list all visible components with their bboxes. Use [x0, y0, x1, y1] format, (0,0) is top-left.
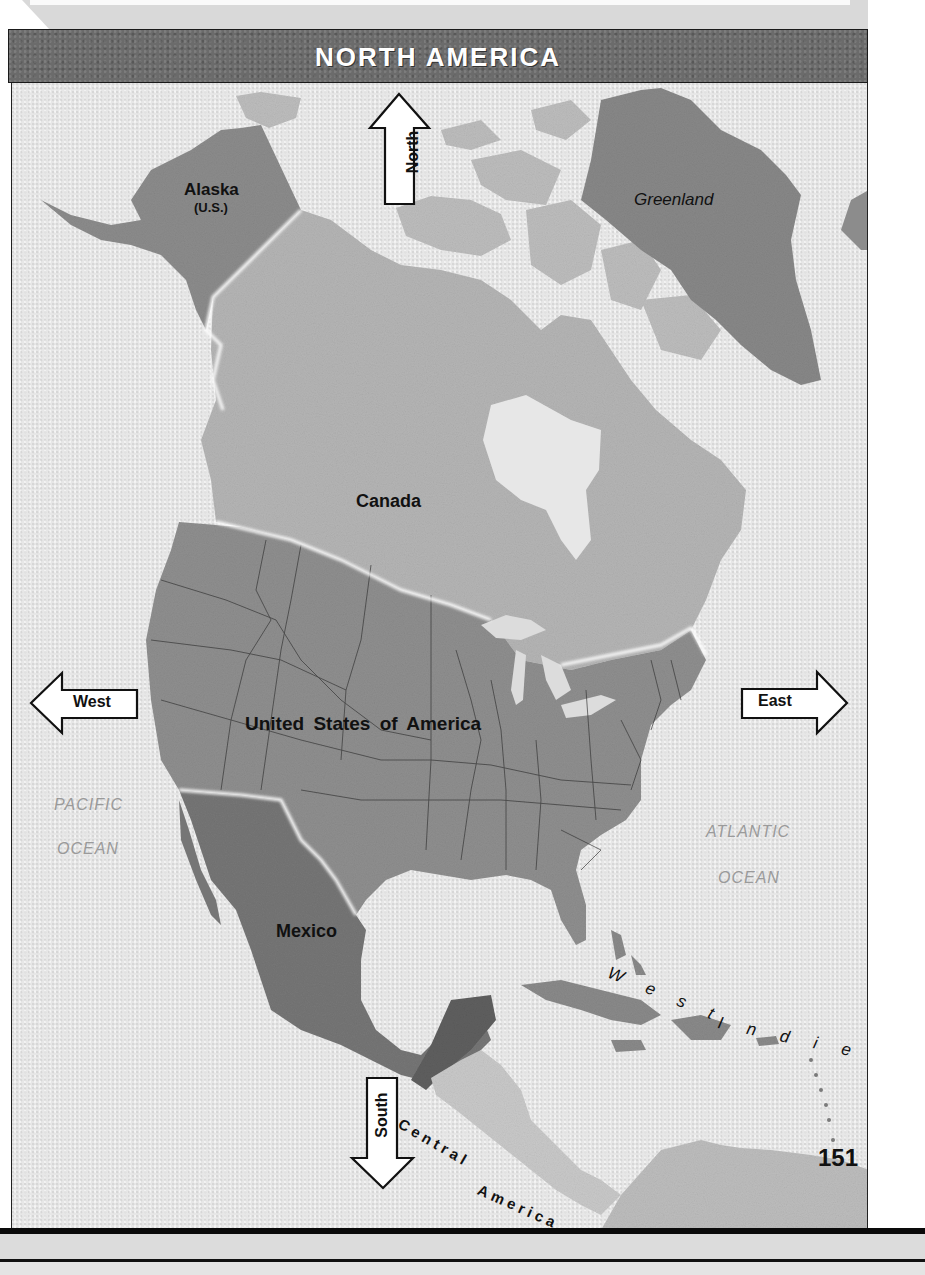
label-atlantic-line2: OCEAN [718, 869, 780, 887]
compass-west-label: West [73, 693, 111, 711]
compass-north-label: North [404, 126, 422, 178]
page-bottom-margin [0, 1262, 925, 1275]
label-canada: Canada [356, 491, 421, 512]
label-alaska-us: (U.S.) [194, 200, 228, 215]
page-number: 151 [818, 1144, 858, 1172]
label-alaska: Alaska [184, 180, 239, 200]
label-mexico: Mexico [276, 921, 337, 942]
siberia-landmass [236, 92, 301, 128]
page-top-edge [30, 0, 850, 5]
label-greenland: Greenland [634, 190, 713, 210]
map-area: Alaska (U.S.) Greenland Canada United St… [11, 83, 868, 1230]
compass-south-label: South [373, 1089, 391, 1141]
north-america-map [12, 83, 868, 1230]
central-america-landmass [431, 1050, 621, 1215]
label-usa: United States of America [245, 713, 481, 735]
label-atlantic-line1: ATLANTIC [706, 823, 790, 841]
label-pacific-line1: PACIFIC [54, 796, 123, 814]
iceland-landmass [841, 190, 868, 250]
compass-east-label: East [758, 692, 792, 710]
lesser-antilles [809, 1058, 835, 1142]
map-title: NORTH AMERICA [9, 42, 867, 73]
map-title-banner: NORTH AMERICA [8, 29, 868, 83]
page-bottom-band [0, 1234, 925, 1260]
label-pacific-line2: OCEAN [57, 840, 119, 858]
